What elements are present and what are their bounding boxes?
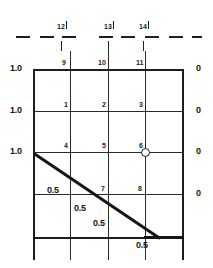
dash-segment-8 xyxy=(192,36,202,38)
node-number-5: 5 xyxy=(102,142,106,149)
node-number-8: 8 xyxy=(138,185,142,192)
symmetry-label-12: 12 xyxy=(57,23,65,30)
dash-segment-2 xyxy=(40,36,54,38)
diagonal-value-1: 0.5 xyxy=(47,185,59,195)
grid-line-v-right xyxy=(182,69,184,260)
diagonal-value-3: 0.5 xyxy=(93,218,105,228)
node-number-7: 7 xyxy=(101,185,105,192)
symmetry-tick-2 xyxy=(108,41,109,51)
node-number-11: 11 xyxy=(136,59,143,66)
dash-segment-6 xyxy=(145,36,159,38)
symmetry-label-13: 13 xyxy=(104,23,112,30)
dash-segment-7 xyxy=(169,36,183,38)
symmetry-tick-3 xyxy=(143,41,144,51)
node-number-3: 3 xyxy=(139,101,143,108)
node-number-2: 2 xyxy=(102,101,106,108)
diagonal-value-2: 0.5 xyxy=(74,203,86,213)
dash-segment-1 xyxy=(16,36,30,38)
right-boundary-value-4: 0 xyxy=(196,188,201,198)
right-boundary-value-3: 0 xyxy=(196,146,201,156)
left-boundary-value-1: 1.0 xyxy=(10,63,22,73)
node-marker-circle xyxy=(141,148,150,157)
node-number-1: 1 xyxy=(64,101,68,108)
right-boundary-value-1: 0 xyxy=(196,63,201,73)
left-boundary-value-3: 1.0 xyxy=(10,146,22,156)
diagonal-tail xyxy=(144,236,184,239)
right-boundary-value-2: 0 xyxy=(196,105,201,115)
left-boundary-value-2: 1.0 xyxy=(10,105,22,115)
node-number-4: 4 xyxy=(64,142,68,149)
node-number-9: 9 xyxy=(62,59,66,66)
diagonal-value-4: 0.5 xyxy=(136,240,148,250)
dash-segment-5 xyxy=(121,36,135,38)
grid-line-v-2 xyxy=(70,51,71,260)
mesh-diagram: 12 13 14 1.0 1.0 1.0 0 0 0 0 0.5 0.5 0.5… xyxy=(0,0,213,268)
node-number-10: 10 xyxy=(98,59,106,66)
dash-segment-4 xyxy=(99,36,113,38)
symmetry-label-14: 14 xyxy=(139,23,147,30)
grid-line-v-3 xyxy=(108,51,109,260)
dash-segment-3 xyxy=(62,36,76,38)
symmetry-flag-3 xyxy=(148,21,149,29)
symmetry-tick-1 xyxy=(61,41,62,51)
grid-line-v-left xyxy=(33,69,35,260)
symmetry-flag-1 xyxy=(66,21,67,29)
symmetry-flag-2 xyxy=(113,21,114,29)
